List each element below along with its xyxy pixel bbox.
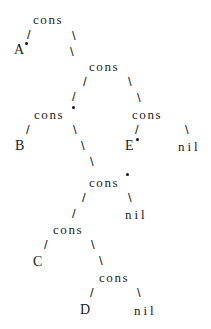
leaf-d: D xyxy=(80,303,90,316)
leaf-b: B xyxy=(15,139,24,152)
leaf-nil: nil xyxy=(134,304,157,317)
edge-right: \ xyxy=(137,91,141,104)
edge-right: \ xyxy=(72,29,76,42)
edge-right: \ xyxy=(73,123,77,136)
cons-node-5: cons xyxy=(89,176,119,189)
cons-node-root: cons xyxy=(33,13,63,26)
dot-marker xyxy=(25,42,28,45)
leaf-e: E xyxy=(125,139,134,152)
edge-left: / xyxy=(26,123,30,136)
cons-node-4: cons xyxy=(132,108,162,121)
edge-left: / xyxy=(82,191,86,204)
edge-left: / xyxy=(44,238,48,251)
leaf-nil: nil xyxy=(125,208,148,221)
edge-right: \ xyxy=(99,254,103,267)
leaf-c: C xyxy=(33,255,42,268)
dot-marker xyxy=(72,106,75,109)
edge-left: / xyxy=(72,207,76,220)
edge-right: \ xyxy=(128,191,132,204)
edge-right: \ xyxy=(70,45,74,58)
edge-left: / xyxy=(72,90,76,103)
dot-marker xyxy=(136,138,139,141)
edge-right: \ xyxy=(91,238,95,251)
cons-node-3: cons xyxy=(34,108,64,121)
dot-marker xyxy=(126,173,129,176)
cons-node-7: cons xyxy=(99,271,129,284)
edge-right: \ xyxy=(137,286,141,299)
edge-left: / xyxy=(135,123,139,136)
leaf-a: A xyxy=(14,43,24,56)
edge-left: / xyxy=(83,75,87,88)
edge-right: \ xyxy=(185,123,189,136)
edge-left: / xyxy=(90,286,94,299)
edge-right: \ xyxy=(81,139,85,152)
edge-right: \ xyxy=(128,75,132,88)
cons-node-6: cons xyxy=(53,223,83,236)
leaf-nil: nil xyxy=(178,140,201,153)
edge-right: \ xyxy=(90,155,94,168)
cons-node-2: cons xyxy=(89,60,119,73)
edge-left: / xyxy=(27,28,31,41)
